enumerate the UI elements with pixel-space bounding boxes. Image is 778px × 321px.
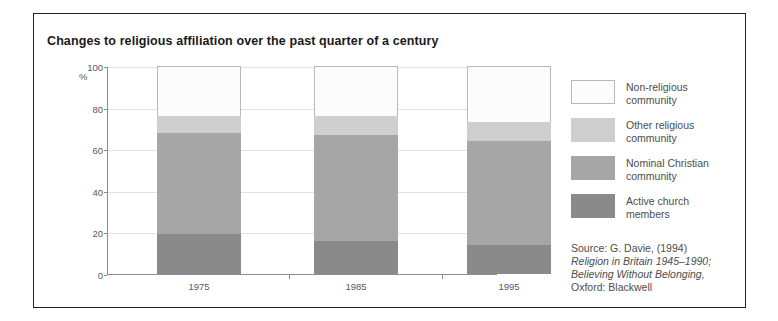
legend-label-line1: Active church: [626, 195, 689, 208]
y-tick-label-0: 0: [98, 270, 103, 281]
legend-label-line1: Non-religious: [626, 81, 688, 94]
chart-legend: Non-religiouscommunityOther religiouscom…: [571, 80, 741, 232]
legend-label-line2: community: [626, 170, 709, 183]
x-tick-label-1995: 1995: [467, 281, 551, 292]
y-tick-mark-80: [104, 109, 107, 110]
legend-label-line2: community: [626, 132, 694, 145]
source-citation: Source: G. Davie, (1994) Religion in Bri…: [571, 242, 751, 294]
bar-segment-1985-nominal-christian-community[interactable]: [314, 135, 398, 241]
legend-item-active-church[interactable]: Active churchmembers: [571, 194, 741, 220]
y-axis-line: [107, 67, 108, 275]
bar-1975[interactable]: [157, 66, 241, 274]
legend-item-non-religious[interactable]: Non-religiouscommunity: [571, 80, 741, 106]
x-axis-line: [107, 274, 497, 275]
x-tick-mark-1995: [442, 275, 443, 279]
legend-item-other-religious[interactable]: Other religiouscommunity: [571, 118, 741, 144]
bar-segment-1985-non-religious-community[interactable]: [314, 66, 398, 116]
bar-segment-1995-non-religious-community[interactable]: [467, 66, 551, 122]
y-tick-label-20: 20: [92, 228, 103, 239]
legend-label-other-religious: Other religiouscommunity: [626, 118, 694, 144]
chart-plot-area: 020406080100 197519851995: [107, 67, 497, 275]
y-axis-unit-label: %: [79, 71, 87, 82]
x-tick-mark-1985: [289, 275, 290, 279]
y-tick-mark-20: [104, 233, 107, 234]
y-tick-label-100: 100: [87, 62, 103, 73]
bar-segment-1975-nominal-christian-community[interactable]: [157, 133, 241, 235]
bar-segment-1995-other-religious-community[interactable]: [467, 122, 551, 141]
legend-label-line1: Other religious: [626, 119, 694, 132]
y-tick-mark-60: [104, 150, 107, 151]
legend-swatch-other-religious: [571, 118, 615, 142]
figure-frame: Changes to religious affiliation over th…: [33, 13, 746, 308]
legend-item-nominal-christian[interactable]: Nominal Christiancommunity: [571, 156, 741, 182]
y-tick-label-80: 80: [92, 103, 103, 114]
bar-segment-1975-non-religious-community[interactable]: [157, 66, 241, 116]
bar-segment-1975-active-church-members[interactable]: [157, 234, 241, 274]
y-tick-mark-40: [104, 192, 107, 193]
source-line-3: Believing Without Belonging,: [571, 268, 751, 281]
x-tick-label-1975: 1975: [157, 281, 241, 292]
bar-segment-1985-active-church-members[interactable]: [314, 241, 398, 274]
x-tick-label-1985: 1985: [314, 281, 398, 292]
bar-segment-1975-other-religious-community[interactable]: [157, 116, 241, 133]
legend-label-line2: members: [626, 208, 689, 221]
source-line-4: Oxford: Blackwell: [571, 281, 751, 294]
bar-segment-1995-active-church-members[interactable]: [467, 245, 551, 274]
y-tick-mark-100: [104, 67, 107, 68]
bar-1995[interactable]: [467, 66, 551, 274]
legend-swatch-active-church: [571, 194, 615, 218]
y-tick-label-60: 60: [92, 145, 103, 156]
y-tick-label-40: 40: [92, 186, 103, 197]
bar-1985[interactable]: [314, 66, 398, 274]
legend-label-non-religious: Non-religiouscommunity: [626, 80, 688, 106]
y-tick-mark-0: [104, 275, 107, 276]
legend-label-active-church: Active churchmembers: [626, 194, 689, 220]
bar-segment-1985-other-religious-community[interactable]: [314, 116, 398, 135]
bar-segment-1995-nominal-christian-community[interactable]: [467, 141, 551, 245]
source-line-2: Religion in Britain 1945–1990;: [571, 255, 751, 268]
page-title: Changes to religious affiliation over th…: [47, 34, 439, 48]
legend-swatch-nominal-christian: [571, 156, 615, 180]
legend-label-line1: Nominal Christian: [626, 157, 709, 170]
legend-label-nominal-christian: Nominal Christiancommunity: [626, 156, 709, 182]
legend-label-line2: community: [626, 94, 688, 107]
source-line-1: Source: G. Davie, (1994): [571, 242, 751, 255]
legend-swatch-non-religious: [571, 80, 615, 104]
